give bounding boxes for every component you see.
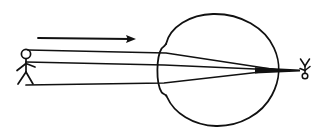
diagram-canvas <box>0 0 319 138</box>
direction-arrow-shaft <box>38 38 131 39</box>
eye-optics-diagram: Eye optics diagram: light rays from an o… <box>0 0 319 138</box>
